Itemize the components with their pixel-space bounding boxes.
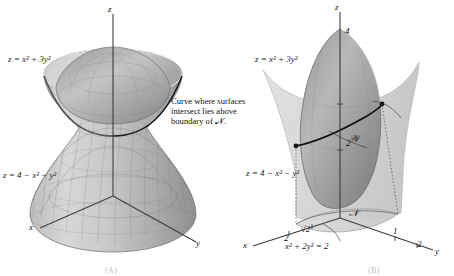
lower-surface-equation-a: z = 4 − x² − y² <box>3 170 56 180</box>
y-tick-1-b: 1 <box>393 226 398 236</box>
solid-region-label-b: 𝒲 <box>349 133 359 145</box>
annotation-line-1: Curve where surfaces <box>171 96 245 106</box>
lower-surface-equation-b: z = 4 − x² − y² <box>246 168 299 178</box>
axis-label-z-a: z <box>108 4 112 14</box>
axis-label-x-b: x <box>243 240 247 250</box>
panel-b-graphic <box>227 0 454 276</box>
y-tick-2-b: 2 <box>417 239 422 249</box>
annotation-line-2: intersect lies above <box>171 106 245 116</box>
axis-label-z-b: z <box>335 2 339 12</box>
panel-caption-b: (B) <box>368 266 380 275</box>
axis-label-x-a: x <box>29 222 33 232</box>
figure-panel-a: z x y z = x² + 3y² z = 4 − x² − y² (A) <box>0 0 227 276</box>
panel-caption-a: (A) <box>105 266 117 275</box>
figure-panel-b: z x y 4 2 2 √2 1 2 𝒲 𝒩 z = x² + 3y² z = … <box>227 0 454 276</box>
upper-surface-equation-b: z = x² + 3y² <box>255 54 298 64</box>
annotation-line-3: boundary of 𝒩. <box>171 116 245 126</box>
panel-a-graphic <box>0 0 227 276</box>
axis-label-y-a: y <box>196 238 200 248</box>
z-tick-4-b: 4 <box>345 26 350 36</box>
x-tick-sqrt2-b: √2 <box>301 224 310 234</box>
axis-label-y-b: y <box>435 246 439 256</box>
intersection-annotation-b: Curve where surfaces intersect lies abov… <box>171 96 245 126</box>
boundary-curve-equation-b: x² + 2y² = 2 <box>285 241 329 251</box>
domain-region-label-b: 𝒩 <box>349 208 358 219</box>
upper-surface-equation-a: z = x² + 3y² <box>8 54 51 64</box>
